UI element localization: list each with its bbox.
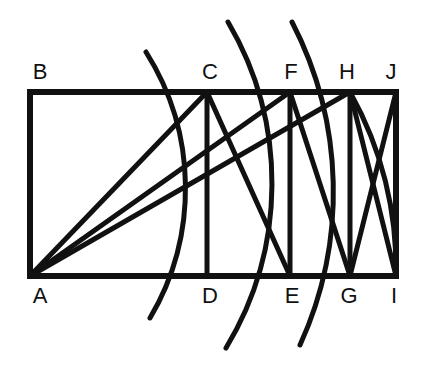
vertex-label-H: H [339,59,355,84]
vertex-label-C: C [202,59,218,84]
vertex-label-G: G [340,283,357,308]
geometric-diagram: B C F H J A D E G I [0,0,424,368]
construction-figure: B C F H J A D E G I [0,0,424,368]
vertex-label-F: F [284,59,297,84]
vertex-label-B: B [33,59,48,84]
vertex-label-I: I [391,283,397,308]
vertex-label-E: E [285,283,300,308]
vertex-label-J: J [386,59,397,84]
canvas-background [0,0,424,368]
vertex-label-D: D [202,283,218,308]
vertex-label-A: A [33,283,48,308]
